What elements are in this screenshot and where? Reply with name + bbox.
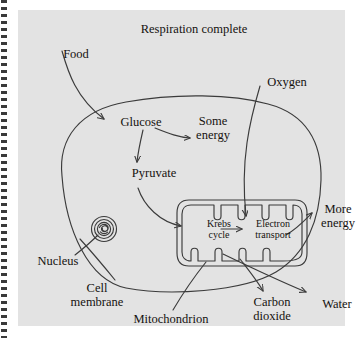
arrow-glucose-to-some-energy [155,128,190,138]
label-more-energy: More energy [312,203,360,230]
label-some-energy: Some energy [186,115,240,142]
label-glucose: Glucose [111,116,171,130]
label-pyruvate: Pyruvate [123,167,185,181]
label-krebs-cycle: Krebs cycle [198,219,240,241]
label-nucleus: Nucleus [29,255,87,269]
figure-title: Respiration complete [114,23,274,37]
label-water: Water [314,298,360,312]
arrow-glucose-to-pyruvate [137,130,143,162]
label-cell-membrane: Cell membrane [63,282,131,309]
line-oxygen-to-electron-transport [244,86,260,216]
spiral-binding-strip [1,0,7,338]
label-food: Food [50,48,102,62]
label-oxygen: Oxygen [256,76,318,90]
arrow-pyruvate-to-krebs [138,188,181,226]
label-carbon-dioxide: Carbon dioxide [244,296,300,323]
label-mitochondrion: Mitochondrion [122,313,220,327]
label-electron-transport: Electron transport [244,219,302,241]
diagram-panel: Respiration complete Food Oxygen Glucose… [18,10,345,326]
leader-mitochondrion [173,262,206,310]
